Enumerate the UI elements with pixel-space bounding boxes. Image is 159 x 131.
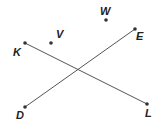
label-e: E bbox=[136, 30, 144, 42]
label-v: V bbox=[56, 28, 65, 40]
point-l bbox=[145, 102, 149, 106]
point-v bbox=[49, 41, 53, 45]
label-l: L bbox=[145, 107, 152, 119]
point-w bbox=[104, 18, 108, 22]
segment-de bbox=[25, 29, 135, 107]
label-k: K bbox=[13, 46, 22, 58]
label-d: D bbox=[16, 109, 24, 121]
segment-kl bbox=[25, 43, 147, 104]
geometry-diagram: K V W E D L bbox=[0, 0, 159, 131]
label-w: W bbox=[100, 5, 112, 17]
point-k bbox=[23, 41, 27, 45]
